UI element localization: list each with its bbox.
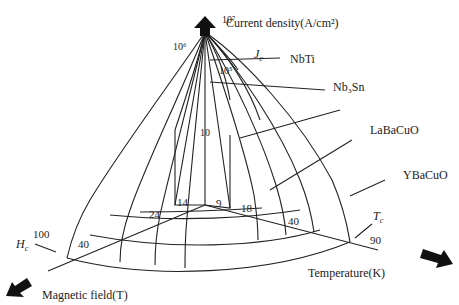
tick-temp-40: 40 (288, 215, 300, 227)
tick-field-14: 14 (177, 196, 189, 208)
hc-label: Hc (15, 237, 29, 253)
current-axis-label: Current density(A/cm²) (226, 16, 339, 30)
material-nb3sn: Nb₃Sn (333, 80, 365, 94)
tick-1e5: 10⁵ (219, 65, 233, 76)
ybacuo-boundary-field (67, 32, 205, 258)
material-labacuo: LaBaCuO (370, 123, 419, 137)
field-axis (48, 205, 205, 271)
tick-field-24: 24 (149, 208, 161, 220)
right-arrow-icon (420, 249, 453, 268)
tc-label: Tc (373, 209, 384, 225)
material-nbti: NbTi (290, 52, 316, 66)
up-arrow-icon (194, 16, 216, 36)
down-left-arrow-icon (6, 278, 32, 297)
tick-center-10: 10 (200, 127, 210, 138)
critical-surface-diagram: Current density(A/cm²) Magnetic field(T)… (0, 0, 459, 305)
field-axis-label: Magnetic field(T) (42, 288, 128, 302)
temperature-axis-label: Temperature(K) (308, 266, 385, 280)
tick-1e7: 10⁷ (222, 14, 236, 25)
tick-temp-9: 9 (216, 197, 222, 209)
tick-field-100: 100 (33, 228, 50, 240)
jc-label: Jc (254, 47, 263, 63)
tick-field-40: 40 (78, 238, 90, 250)
tick-temp-18: 18 (241, 202, 253, 214)
tick-temp-90: 90 (370, 234, 382, 246)
tick-1e6: 10⁶ (173, 41, 187, 52)
material-ybacuo: YBaCuO (403, 168, 448, 182)
